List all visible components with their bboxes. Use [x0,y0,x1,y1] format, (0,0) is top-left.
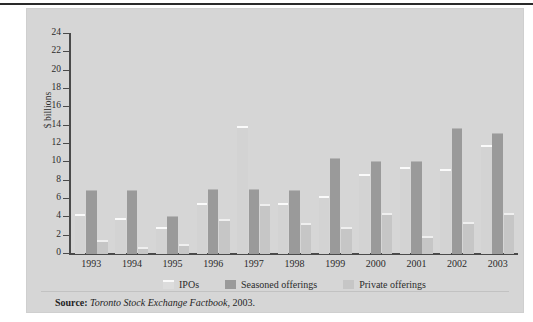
bar-seasoned-offerings-2003 [492,133,503,254]
bar-private-offerings-1999 [341,227,352,255]
bar-ipos-1998 [278,203,289,254]
bar-seasoned-offerings-2001 [411,161,422,255]
legend-swatch-ipo-icon [163,280,174,289]
source-title: Toronto Stock Exchange Factbook [90,297,227,308]
bar-group [115,33,148,254]
bar-private-offerings-1995 [179,244,190,254]
x-axis-label-1996: 1996 [193,259,233,269]
bar-group [400,33,433,254]
bar-ipos-1996 [197,203,208,254]
y-axis-tick-label: 0 [27,248,61,258]
bar-group [359,33,392,254]
legend-swatch-seasoned-icon [225,280,236,289]
bar-seasoned-offerings-1995 [167,216,178,255]
y-axis-tick-label: 8 [27,175,61,185]
bar-private-offerings-1993 [97,240,108,254]
legend-label-seasoned: Seasoned offerings [241,279,317,290]
y-axis-tick-label: 14 [27,120,61,130]
bar-private-offerings-1994 [138,247,149,254]
chart-panel: $ billions 242220181614121086420 1993199… [27,9,523,312]
legend-item-private[interactable]: Private offerings [343,279,426,290]
source-note: Source: Toronto Stock Exchange Factbook,… [55,297,255,308]
bar-seasoned-offerings-1999 [330,158,341,254]
bar-group [75,33,108,254]
bar-group [319,33,352,254]
legend-item-seasoned[interactable]: Seasoned offerings [225,279,317,290]
bar-group [197,33,230,254]
bar-ipos-2002 [440,169,451,254]
bar-ipos-2000 [359,174,370,254]
bar-ipos-1993 [75,214,86,254]
bar-seasoned-offerings-1996 [208,189,219,254]
bar-ipos-2003 [481,145,492,254]
x-axis-label-2003: 2003 [478,259,518,269]
y-axis-tick-label: 12 [27,138,61,148]
bar-ipos-1994 [115,218,126,254]
legend-item-ipo[interactable]: IPOs [163,279,199,290]
bar-seasoned-offerings-2002 [452,128,463,255]
bar-group [156,33,189,254]
bar-private-offerings-2002 [463,222,474,254]
chart-legend: IPOsSeasoned offeringsPrivate offerings [71,279,518,290]
figure-page: $ billions 242220181614121086420 1993199… [0,0,533,322]
y-axis-tick-label: 2 [27,230,61,240]
x-axis-label-2001: 2001 [396,259,436,269]
plot-area: $ billions 242220181614121086420 1993199… [27,9,523,312]
bar-private-offerings-1998 [301,223,312,254]
bar-ipos-1995 [156,227,167,254]
y-axis-tick-label: 20 [27,65,61,75]
y-axis-tick-label: 18 [27,83,61,93]
bar-ipos-1997 [237,126,248,254]
bar-private-offerings-2001 [422,236,433,254]
top-divider-rule [0,3,533,5]
bar-group [237,33,270,254]
bar-seasoned-offerings-2000 [371,161,382,255]
source-prefix: Source: [55,297,88,308]
source-divider [41,291,509,292]
bar-group [278,33,311,254]
y-axis-tick-label: 22 [27,46,61,56]
y-axis-tick-label: 4 [27,211,61,221]
x-axis-label-1999: 1999 [315,259,355,269]
y-axis-tick-label: 24 [27,28,61,38]
bar-private-offerings-2003 [504,213,515,254]
x-axis-label-1995: 1995 [153,259,193,269]
bar-group [440,33,473,254]
bar-ipos-1999 [319,196,330,254]
bar-group [481,33,514,254]
bar-seasoned-offerings-1993 [86,190,97,254]
bar-seasoned-offerings-1994 [127,190,138,254]
x-axis-label-1997: 1997 [234,259,274,269]
legend-swatch-private-icon [343,280,354,289]
bar-seasoned-offerings-1998 [289,190,300,254]
x-axis-label-1994: 1994 [112,259,152,269]
y-axis-tick-label: 6 [27,193,61,203]
bar-ipos-2001 [400,167,411,254]
bar-groups [71,33,518,254]
legend-label-private: Private offerings [359,279,426,290]
bar-private-offerings-1996 [219,219,230,254]
x-axis-label-2002: 2002 [437,259,477,269]
legend-label-ipo: IPOs [179,279,199,290]
source-suffix: , 2003. [227,297,255,308]
y-axis-tick-label: 10 [27,156,61,166]
bar-private-offerings-2000 [382,213,393,254]
x-axis-label-2000: 2000 [356,259,396,269]
bar-seasoned-offerings-1997 [249,189,260,254]
y-axis-tick-label: 16 [27,101,61,111]
x-axis-label-1993: 1993 [71,259,111,269]
bar-private-offerings-1997 [260,204,271,254]
x-axis-label-1998: 1998 [275,259,315,269]
